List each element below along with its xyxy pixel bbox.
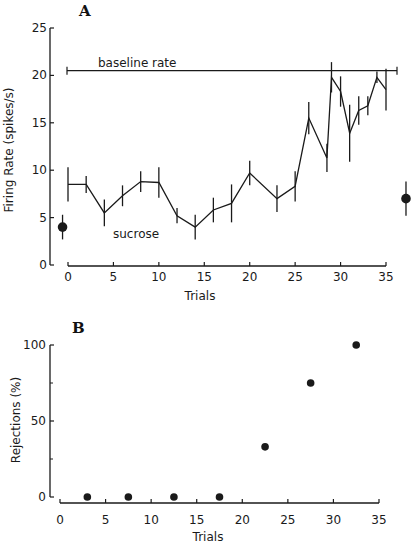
data-point xyxy=(261,443,269,451)
x-tick-label: 5 xyxy=(110,270,118,284)
rejections-series xyxy=(84,341,360,501)
data-point xyxy=(352,341,360,349)
data-point xyxy=(170,493,178,501)
panel-b-y-axis: 050100 xyxy=(23,338,54,504)
y-tick-label: 15 xyxy=(32,116,47,130)
panel-a-label: A xyxy=(78,2,91,20)
y-tick-label: 0 xyxy=(38,490,46,504)
x-tick-label: 30 xyxy=(326,513,341,527)
panel-a-chart: A 0510152025 05101520253035 Trials Firin… xyxy=(2,2,411,303)
baseline-rate-label: baseline rate xyxy=(98,56,176,70)
panel-a-x-axis-label: Trials xyxy=(184,289,216,303)
x-tick-label: 35 xyxy=(378,270,393,284)
sucrose-label: sucrose xyxy=(113,227,159,241)
x-tick-label: 15 xyxy=(189,513,204,527)
y-tick-label: 20 xyxy=(32,68,47,82)
panel-b-x-axis: 05101520253035 xyxy=(56,499,386,527)
x-tick-label: 20 xyxy=(242,270,257,284)
x-tick-label: 25 xyxy=(288,270,303,284)
firing-rate-series xyxy=(58,62,411,239)
panel-a-y-axis-label: Firing Rate (spikes/s) xyxy=(2,87,16,212)
data-point xyxy=(307,379,315,387)
x-tick-label: 10 xyxy=(144,513,159,527)
x-tick-label: 0 xyxy=(64,270,72,284)
data-point xyxy=(125,493,133,501)
y-tick-label: 100 xyxy=(23,338,46,352)
panel-b-y-axis-label: Rejections (%) xyxy=(9,377,23,463)
y-tick-label: 5 xyxy=(39,211,47,225)
figure: A 0510152025 05101520253035 Trials Firin… xyxy=(0,0,417,546)
x-tick-label: 15 xyxy=(197,270,212,284)
y-tick-label: 10 xyxy=(32,163,47,177)
x-tick-label: 5 xyxy=(102,513,110,527)
x-tick-label: 35 xyxy=(371,513,386,527)
panel-b-label: B xyxy=(72,319,85,337)
x-tick-label: 30 xyxy=(333,270,348,284)
panel-a-x-axis: 05101520253035 xyxy=(64,262,393,284)
y-tick-label: 25 xyxy=(32,21,47,35)
y-tick-label: 0 xyxy=(39,258,47,272)
data-point xyxy=(216,493,224,501)
control-point xyxy=(401,194,411,204)
control-point xyxy=(58,222,68,232)
x-tick-label: 25 xyxy=(280,513,295,527)
data-point xyxy=(84,493,92,501)
y-tick-label: 50 xyxy=(31,414,46,428)
x-tick-label: 0 xyxy=(56,513,64,527)
panel-b-x-axis-label: Trials xyxy=(192,530,224,544)
panel-a-y-axis: 0510152025 xyxy=(32,21,54,272)
x-tick-label: 20 xyxy=(235,513,250,527)
x-tick-label: 10 xyxy=(151,270,166,284)
panel-b-chart: B 050100 05101520253035 Trials Rejection… xyxy=(9,319,387,544)
